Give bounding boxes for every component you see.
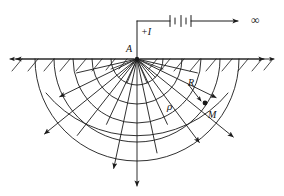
label-current: +I	[141, 27, 151, 37]
label-measure-point: M	[208, 110, 216, 120]
battery-icon	[170, 16, 191, 27]
label-source-point: A	[126, 44, 132, 54]
measurement-point-dot	[203, 101, 208, 106]
circuit-wiring	[137, 21, 238, 59]
label-resistivity: ρ	[167, 101, 172, 112]
label-radius: R	[188, 78, 194, 88]
label-infinity: ∞	[251, 14, 260, 26]
figure-container: A +I ∞ R ρ M	[0, 0, 284, 196]
